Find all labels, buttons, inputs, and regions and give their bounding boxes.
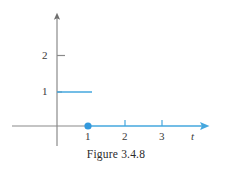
y-tick-label-1: 1 xyxy=(42,86,48,97)
x-axis-variable-label: t xyxy=(191,131,194,142)
plot-area xyxy=(0,0,232,169)
y-tick-label-2: 2 xyxy=(42,50,48,61)
x-tick-label-2: 2 xyxy=(122,131,128,142)
figure-container: 2 1 1 2 3 t Figure 3.4.8 xyxy=(0,0,232,169)
closed-point-marker xyxy=(84,122,91,129)
figure-caption: Figure 3.4.8 xyxy=(0,148,232,160)
x-tick-label-1: 1 xyxy=(85,131,91,142)
x-tick-label-3: 3 xyxy=(159,131,165,142)
